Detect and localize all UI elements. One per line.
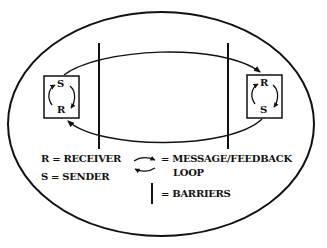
legend-sender: S = SENDER bbox=[41, 171, 109, 182]
legend-loop-arrow-bottom bbox=[135, 168, 155, 171]
legend-loop-line1: = MESSAGE/FEEDBACK bbox=[161, 153, 292, 164]
legend-receiver: R = RECEIVER bbox=[41, 153, 121, 164]
right-box-top-letter: R bbox=[260, 77, 268, 88]
legend-loop-arrow-top bbox=[134, 158, 155, 161]
right-box-bottom-letter: S bbox=[260, 104, 267, 115]
feedback-arc-bottom bbox=[68, 119, 262, 143]
message-arc-top bbox=[64, 52, 260, 75]
legend-barriers: = BARRIERS bbox=[161, 188, 231, 199]
legend-loop-line2: LOOP bbox=[173, 167, 204, 178]
left-box-bottom-letter: R bbox=[57, 104, 65, 115]
left-box-top-letter: S bbox=[57, 78, 64, 89]
environment-ellipse bbox=[8, 12, 314, 236]
communication-model-diagram: S R R S R = RECEIVER S = SENDER = MESSAG… bbox=[0, 0, 327, 248]
diagram-graphics bbox=[0, 0, 327, 248]
